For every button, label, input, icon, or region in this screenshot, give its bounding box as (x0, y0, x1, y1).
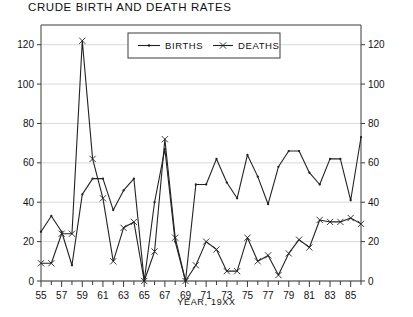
data-point-marker (308, 172, 310, 174)
y-tick-label-left: 20 (23, 236, 35, 247)
series-line (41, 41, 361, 281)
data-point-marker (275, 272, 281, 278)
data-point-marker (255, 258, 261, 264)
x-axis-title: YEAR, 19XX (0, 297, 413, 307)
legend-label-deaths: DEATHS (238, 40, 279, 51)
data-point-marker (236, 197, 238, 199)
data-point-marker (50, 215, 52, 217)
series-births (40, 136, 362, 282)
data-point-marker (329, 158, 331, 160)
y-tick-label-right: 0 (368, 276, 374, 287)
y-tick-label-left: 120 (17, 39, 34, 50)
data-point-marker (319, 183, 321, 185)
data-point-marker (102, 177, 104, 179)
y-axis-ticks-left: 020406080100120 (17, 39, 41, 286)
legend-label-births: BIRTHS (165, 40, 203, 51)
data-point-marker (133, 177, 135, 179)
chart-figure: CRUDE BIRTH AND DEATH RATES 555759616365… (0, 0, 413, 317)
data-point-marker (360, 136, 362, 138)
data-point-marker (81, 193, 83, 195)
chart-plot-area: 55575961636567697173757779818385 0204060… (0, 0, 413, 300)
y-tick-label-right: 60 (368, 157, 380, 168)
axis-lines (41, 25, 361, 281)
data-point-marker (120, 225, 126, 231)
data-point-marker (339, 158, 341, 160)
data-point-marker (348, 215, 354, 221)
chart-title: CRUDE BIRTH AND DEATH RATES (28, 1, 231, 13)
data-point-marker (122, 189, 124, 191)
y-tick-label-right: 80 (368, 118, 380, 129)
y-tick-label-left: 80 (23, 118, 35, 129)
y-tick-label-right: 100 (368, 79, 385, 90)
data-point-marker (40, 231, 42, 233)
data-point-marker (306, 244, 312, 250)
data-point-marker (265, 252, 271, 258)
legend-marker-births (148, 44, 151, 47)
data-point-marker (112, 209, 114, 211)
data-point-marker (257, 175, 259, 177)
y-tick-label-right: 120 (368, 39, 385, 50)
data-point-marker (267, 203, 269, 205)
data-point-marker (205, 183, 207, 185)
data-point-marker (193, 262, 199, 268)
y-tick-label-left: 40 (23, 197, 35, 208)
chart-legend: BIRTHSDEATHS (128, 33, 280, 58)
data-point-marker (246, 154, 248, 156)
data-point-marker (91, 177, 93, 179)
y-tick-label-left: 100 (17, 79, 34, 90)
data-point-marker (71, 264, 73, 266)
y-tick-label-right: 40 (368, 197, 380, 208)
y-tick-label-right: 20 (368, 236, 380, 247)
data-point-marker (215, 158, 217, 160)
data-point-marker (195, 183, 197, 185)
data-point-marker (153, 201, 155, 203)
data-point-marker (213, 246, 219, 252)
y-tick-label-left: 0 (28, 276, 34, 287)
data-point-marker (226, 181, 228, 183)
data-point-marker (277, 166, 279, 168)
data-point-marker (288, 150, 290, 152)
series-line (41, 137, 361, 281)
series-deaths (38, 38, 364, 284)
data-point-marker (244, 235, 250, 241)
y-axis-ticks-right: 020406080100120 (361, 39, 385, 286)
data-point-marker (350, 199, 352, 201)
data-point-marker (286, 250, 292, 256)
data-point-marker (298, 150, 300, 152)
gridlines (41, 45, 361, 281)
y-tick-label-left: 60 (23, 157, 35, 168)
